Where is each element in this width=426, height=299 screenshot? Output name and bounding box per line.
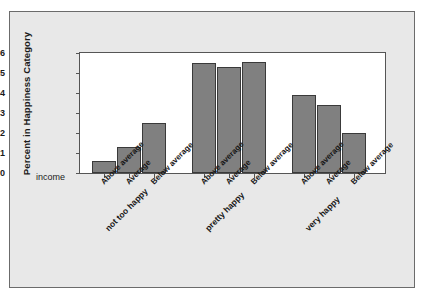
x-group-label: very happy <box>303 194 342 233</box>
bar <box>292 95 316 173</box>
x-group-label: pretty happy <box>203 190 246 233</box>
y-tick-label: 0.2 <box>0 128 5 138</box>
y-tick-label: 0.5 <box>0 68 5 78</box>
y-tick-label: 0.3 <box>0 108 5 118</box>
y-tick-label: 0.0 <box>0 168 5 178</box>
chart-figure: Percent in Happiness Category income 0.0… <box>9 11 415 288</box>
y-tick-mark <box>76 153 80 154</box>
y-tick-label: 0.1 <box>0 148 5 158</box>
bar <box>242 62 266 173</box>
x-axis-group-title: income <box>36 172 65 182</box>
y-tick-label: 0.6 <box>0 48 5 58</box>
y-tick-label: 0.4 <box>0 88 5 98</box>
y-tick-mark <box>76 113 80 114</box>
y-tick-mark <box>76 133 80 134</box>
x-group-label: not too happy <box>103 186 150 233</box>
y-axis-title: Percent in Happiness Category <box>21 9 32 199</box>
y-tick-mark <box>76 53 80 54</box>
y-tick-mark <box>76 93 80 94</box>
y-tick-mark <box>76 73 80 74</box>
y-tick-mark <box>76 173 80 174</box>
bar <box>192 63 216 173</box>
